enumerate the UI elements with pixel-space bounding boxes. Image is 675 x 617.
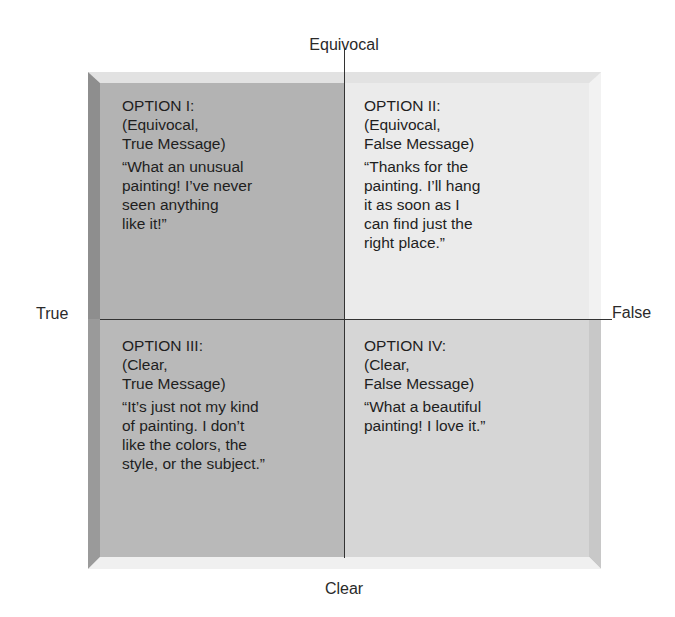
axis-label-equivocal: Equivocal [0, 36, 675, 54]
quadrant-title: OPTION II: (Equivocal, False Message) [364, 96, 579, 153]
vertical-axis-line [344, 48, 345, 558]
quadrant-option-2: OPTION II: (Equivocal, False Message) “T… [344, 83, 589, 319]
axis-label-true: True [36, 305, 68, 323]
bevel-bottom [88, 557, 601, 569]
quadrant-option-3: OPTION III: (Clear, True Message) “It’s … [100, 319, 344, 557]
quadrant-grid: OPTION I: (Equivocal, True Message) “Wha… [88, 72, 601, 569]
quadrant-quote: “What a beautiful painting! I love it.” [364, 397, 579, 435]
axis-label-clear: Clear [0, 580, 675, 598]
quadrant-option-4: OPTION IV: (Clear, False Message) “What … [344, 319, 589, 557]
bevel-left-bottom [88, 319, 100, 569]
bevel-right-top [589, 72, 601, 320]
quadrant-quote: “It’s just not my kind of painting. I do… [122, 397, 334, 473]
quadrant-quote: “Thanks for the painting. I’ll hang it a… [364, 157, 579, 252]
quadrant-option-1: OPTION I: (Equivocal, True Message) “Wha… [100, 83, 344, 319]
quadrant-title: OPTION I: (Equivocal, True Message) [122, 96, 334, 153]
quadrant-title: OPTION IV: (Clear, False Message) [364, 336, 579, 393]
quadrant-quote: “What an unusual painting! I’ve never se… [122, 157, 334, 233]
horizontal-axis-line [100, 319, 612, 320]
quadrant-title: OPTION III: (Clear, True Message) [122, 336, 334, 393]
axis-label-false: False [612, 304, 651, 322]
